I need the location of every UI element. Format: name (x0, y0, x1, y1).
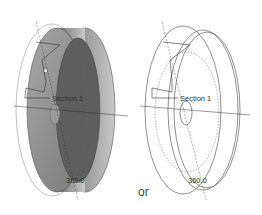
wireframe-disk-view: Section 1 360.0 (140, 22, 250, 200)
angle-label-left: 360.0 (66, 176, 85, 185)
or-separator: or (138, 185, 149, 199)
section-label-right: Section 1 (180, 94, 211, 103)
angle-label-right: 360.0 (188, 176, 207, 185)
diagram-canvas: Section 1 360.0 Section 1 360.0 (0, 0, 262, 215)
section-label-left: Section 1 (52, 94, 83, 103)
shaded-disk-view: Section 1 360.0 (14, 22, 128, 200)
